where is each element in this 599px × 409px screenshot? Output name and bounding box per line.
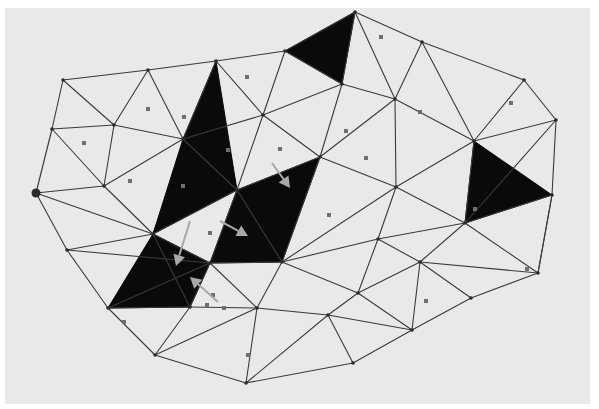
sample-point (205, 303, 209, 307)
mesh-vertex (283, 49, 287, 53)
mesh-vertex (469, 296, 473, 300)
mesh-vertex (394, 185, 398, 189)
mesh-vertex (420, 40, 424, 44)
mesh-vertex (153, 353, 157, 357)
mesh-vertex (418, 260, 422, 264)
sample-point (525, 267, 529, 271)
start-vertex (32, 189, 41, 198)
mesh-vertex (393, 97, 397, 101)
sample-point (418, 110, 422, 114)
mesh-vertex (326, 313, 330, 317)
sample-point (364, 156, 368, 160)
mesh-vertex (65, 248, 69, 252)
triangulation-figure (0, 0, 599, 409)
mesh-vertex (244, 381, 248, 385)
sample-point (122, 320, 126, 324)
mesh-vertex (410, 328, 414, 332)
mesh-vertex (112, 123, 116, 127)
mesh-vertex (188, 305, 192, 309)
mesh-vertex (235, 188, 239, 192)
sample-point (246, 353, 250, 357)
mesh-vertex (472, 139, 476, 143)
sample-point (181, 184, 185, 188)
mesh-vertex (102, 184, 106, 188)
sample-point (128, 179, 132, 183)
sample-point (245, 75, 249, 79)
mesh-vertex (50, 127, 54, 131)
mesh-vertex (208, 261, 212, 265)
mesh-vertex (181, 137, 185, 141)
mesh-vertex (376, 237, 380, 241)
mesh-vertex (214, 59, 218, 63)
mesh-vertex (61, 78, 65, 82)
sample-point (424, 299, 428, 303)
mesh-vertex (318, 155, 322, 159)
mesh-vertex (536, 271, 540, 275)
sample-point (509, 101, 513, 105)
sample-point (226, 148, 230, 152)
mesh-vertex (550, 193, 554, 197)
mesh-vertex (351, 361, 355, 365)
mesh-vertex (522, 78, 526, 82)
sample-point (344, 129, 348, 133)
mesh-vertex (151, 232, 155, 236)
mesh-vertex (146, 68, 150, 72)
sample-point (379, 35, 383, 39)
mesh-vertex (340, 82, 344, 86)
sample-point (182, 115, 186, 119)
mesh-vertex (261, 113, 265, 117)
mesh-vertex (280, 260, 284, 264)
sample-point (327, 213, 331, 217)
mesh-vertex (356, 291, 360, 295)
mesh-vertex (106, 306, 110, 310)
sample-point (473, 207, 477, 211)
mesh-vertex (353, 10, 357, 14)
mesh-vertex (255, 306, 259, 310)
mesh-vertex (463, 221, 467, 225)
mesh-vertex (554, 118, 558, 122)
sample-point (222, 306, 226, 310)
sample-point (208, 231, 212, 235)
sample-point (278, 147, 282, 151)
sample-point (82, 141, 86, 145)
sample-point (146, 107, 150, 111)
